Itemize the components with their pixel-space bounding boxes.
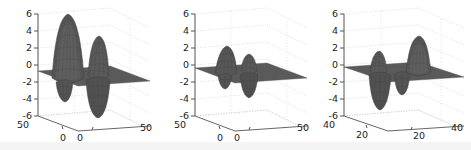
- z-tick-label: 6: [324, 9, 338, 19]
- figure-canvas: 6 4 2 0 -2 -4 -6 50 0 0 50: [0, 0, 471, 150]
- z-tick-label: 2: [324, 43, 338, 53]
- surface-plot-panel-3[interactable]: 6 4 2 0 -2 -4 -6 40 20 20 40: [314, 0, 471, 150]
- axes-2: 6 4 2 0 -2 -4 -6 50 0 0 50: [157, 0, 314, 150]
- z-tick-label: 6: [18, 9, 32, 19]
- axes-3: 6 4 2 0 -2 -4 -6 40 20 20 40: [314, 0, 471, 150]
- base-tick-label-right: 40: [451, 123, 463, 133]
- z-tick-label: -2: [171, 77, 189, 87]
- base-tick-label-mid-right: 20: [413, 131, 425, 141]
- surface-plot-panel-2[interactable]: 6 4 2 0 -2 -4 -6 50 0 0 50: [157, 0, 314, 150]
- base-tick-label-left: 40: [323, 120, 335, 130]
- z-tick-marks-2: [191, 14, 195, 116]
- z-tick-label: 2: [18, 43, 32, 53]
- z-tick-label: 0: [175, 60, 189, 70]
- z-tick-label: 0: [324, 60, 338, 70]
- base-tick-label-right: 50: [297, 123, 309, 133]
- z-tick-marks-1: [34, 14, 38, 116]
- base-tick-label-right: 50: [140, 123, 152, 133]
- surface-mesh-3: [344, 36, 464, 110]
- z-tick-label: -2: [320, 77, 338, 87]
- z-tick-label: -4: [171, 94, 189, 104]
- surface-mesh-1: [38, 14, 150, 118]
- z-tick-label: 0: [18, 60, 32, 70]
- z-tick-label: 2: [175, 43, 189, 53]
- z-tick-marks-3: [340, 14, 344, 116]
- base-tick-label-left: 50: [174, 120, 186, 130]
- figure-bottom-band: [0, 142, 471, 150]
- axes-svg-3: [314, 0, 471, 150]
- z-tick-label: 4: [18, 26, 32, 36]
- axes-1: 6 4 2 0 -2 -4 -6 50 0 0 50: [0, 0, 157, 150]
- axis-floor-2: [195, 116, 307, 131]
- z-tick-label: -4: [320, 94, 338, 104]
- base-tick-label-mid-left: 20: [356, 130, 368, 140]
- z-tick-label: -4: [14, 94, 32, 104]
- z-tick-label: -2: [14, 77, 32, 87]
- base-tick-label-left: 50: [17, 120, 29, 130]
- z-tick-label: 6: [175, 9, 189, 19]
- axis-floor-1: [38, 116, 150, 131]
- z-tick-label: 4: [324, 26, 338, 36]
- surface-plot-panel-1[interactable]: 6 4 2 0 -2 -4 -6 50 0 0 50: [0, 0, 157, 150]
- z-tick-label: 4: [175, 26, 189, 36]
